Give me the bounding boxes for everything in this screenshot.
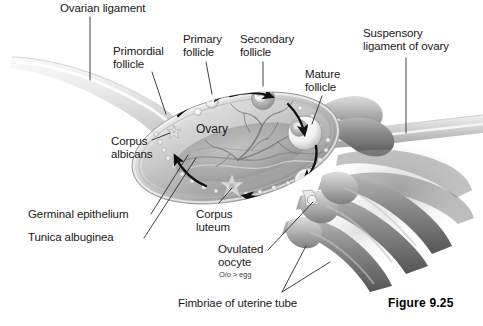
leader-fimbriae-a (282, 246, 306, 292)
figure-number: Figure 9.25 (388, 296, 454, 310)
label-tunica-albuginea: Tunica albuginea (28, 231, 114, 244)
label-ovarian-ligament: Ovarian ligament (60, 2, 145, 15)
mature-follicle-structure (288, 116, 322, 150)
label-corpus-luteum: Corpus luteum (196, 208, 232, 234)
label-ovary: Ovary (196, 122, 228, 136)
oocyte-annotation-note: O/o > egg (219, 270, 251, 279)
leader-fimbriae-b (282, 262, 330, 292)
label-ovulated-oocyte: Ovulated oocyte (218, 243, 263, 269)
ovary-body-structure (121, 73, 351, 222)
label-primary-follicle: Primary follicle (183, 33, 222, 59)
label-germinal-epithelium: Germinal epithelium (28, 208, 128, 221)
label-corpus-albicans: Corpus albicans (111, 135, 152, 161)
figure-ovary-anatomy: Ovarian ligament Primordial follicle Pri… (0, 0, 483, 326)
secondary-follicle-structure (252, 87, 275, 110)
label-primordial-follicle: Primordial follicle (113, 45, 164, 71)
label-mature-follicle: Mature follicle (305, 68, 340, 94)
leader-primary-follicle (206, 62, 212, 94)
label-fimbriae-of-uterine-tube: Fimbriae of uterine tube (178, 297, 297, 310)
label-secondary-follicle: Secondary follicle (240, 33, 294, 59)
label-suspensory-ligament: Suspensory ligament of ovary (363, 27, 449, 53)
